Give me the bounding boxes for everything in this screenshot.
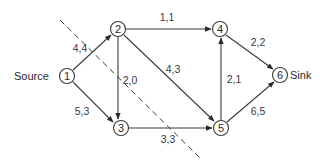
source-label: Source [14,70,49,82]
svg-text:4: 4 [217,23,223,35]
svg-text:2: 2 [115,23,121,35]
edge-label-5-4: 2,1 [227,73,242,85]
edges [73,29,274,128]
flow-network-diagram: 4,4 5,3 1,1 2,0 4,3 3,3 2,1 2,2 6,5 1 2 … [0,0,323,168]
node-5: 5 [214,121,229,136]
node-3: 3 [114,121,129,136]
svg-text:6: 6 [277,69,283,81]
edge-label-1-2: 4,4 [73,42,88,54]
svg-text:3: 3 [118,122,124,134]
svg-text:1: 1 [64,70,70,82]
edge-label-4-6: 2,2 [251,36,266,48]
node-4: 4 [213,22,228,37]
sink-label: Sink [290,69,312,81]
edge-label-5-6: 6,5 [251,105,266,117]
node-6: 6 [273,68,288,83]
edge-2-5 [124,35,214,121]
edge-label-2-5: 4,3 [166,63,181,75]
edge-label-1-3: 5,3 [75,105,90,117]
svg-text:5: 5 [218,122,224,134]
node-2: 2 [111,22,126,37]
node-1: 1 [60,69,75,84]
edge-4-6 [226,35,273,69]
edge-label-2-3: 2,0 [123,74,138,86]
edge-label-2-4: 1,1 [160,11,175,23]
edge-label-3-5: 3,3 [161,133,176,145]
